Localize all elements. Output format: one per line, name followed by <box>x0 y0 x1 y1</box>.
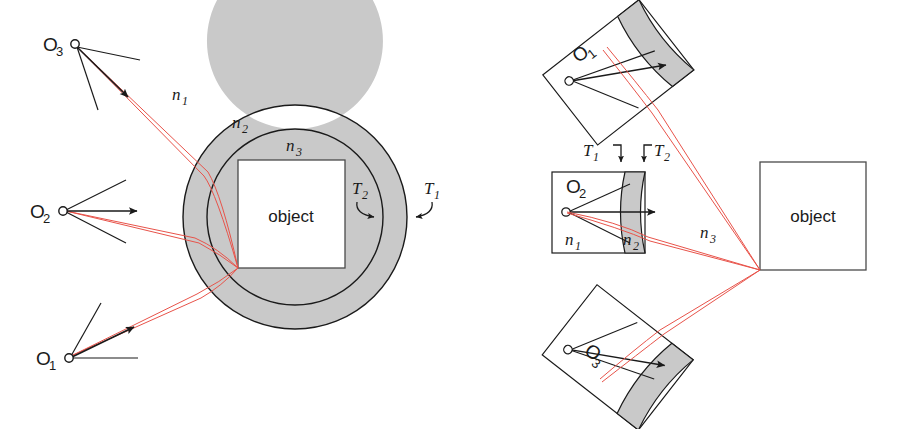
right-slab-o3: O 3 <box>542 285 693 429</box>
left-source-o1: O 1 <box>36 303 138 373</box>
right-object-label: object <box>790 207 836 226</box>
left-n2-base: n <box>232 113 241 132</box>
right-n3-label: n 3 <box>700 223 716 246</box>
left-n1-sub: 1 <box>182 94 188 108</box>
left-t1-sub: 1 <box>434 188 440 202</box>
right-slab-o1: O 1 <box>540 0 693 145</box>
o2-label-sub: 2 <box>43 211 50 226</box>
o1-source-point <box>65 354 73 362</box>
left-panel: object O 3 <box>30 0 440 373</box>
left-n2-sub: 2 <box>242 122 248 136</box>
right-t1-arrow <box>613 145 621 162</box>
right-n3-base: n <box>700 223 709 242</box>
left-n1-base: n <box>172 85 181 104</box>
optics-diagram-svg: object O 3 <box>0 0 905 429</box>
left-source-o3: O 3 <box>43 34 140 110</box>
right-n1-base: n <box>565 230 574 249</box>
left-t2-sub: 2 <box>362 188 368 202</box>
o2-fan-lower <box>66 212 126 243</box>
o1-fan-upper <box>71 303 101 356</box>
right-thickness-markers: T 1 T 2 <box>583 141 670 164</box>
o1-label-sub: 1 <box>49 358 56 373</box>
left-t1-arrow <box>416 202 432 217</box>
right-n3-sub: 3 <box>709 232 716 246</box>
left-object-label: object <box>268 207 314 226</box>
right-panel: object O 1 O 2 n 1 n <box>540 0 866 429</box>
figure-root: object O 3 <box>0 0 905 429</box>
o1-direction-arrow <box>72 327 134 357</box>
o2-source-point <box>59 207 67 215</box>
o2-fan-upper <box>66 180 126 210</box>
right-n2-sub: 2 <box>633 239 639 253</box>
right-t2-sub: 2 <box>664 150 670 164</box>
left-source-o2: O 2 <box>30 180 137 243</box>
o3-source-point <box>71 40 79 48</box>
slab-o2-label-sub: 2 <box>579 186 586 201</box>
right-n1-sub: 1 <box>575 239 581 253</box>
right-t2-arrow <box>644 145 652 162</box>
left-n3-sub: 3 <box>295 145 302 159</box>
o3-label-sub: 3 <box>56 44 63 59</box>
o3-fan-upper <box>77 47 140 60</box>
left-n3-base: n <box>286 136 295 155</box>
right-t1-sub: 1 <box>593 150 599 164</box>
